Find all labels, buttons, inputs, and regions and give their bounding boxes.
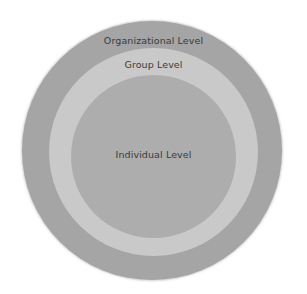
concentric-levels-diagram: Organizational Level Group Level Individ… xyxy=(0,0,307,294)
group-level-label: Group Level xyxy=(0,59,307,70)
individual-level-label: Individual Level xyxy=(0,149,307,160)
organizational-level-label: Organizational Level xyxy=(0,35,307,46)
